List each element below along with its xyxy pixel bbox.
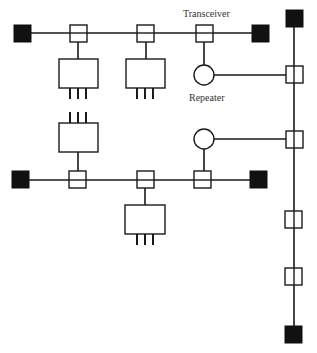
repeater-label: Repeater — [189, 92, 225, 103]
terminator-bottom-left — [12, 171, 29, 188]
terminator-bottom-right — [250, 171, 267, 188]
station-box — [59, 123, 98, 152]
station-box — [126, 59, 165, 88]
terminator-backbone-top — [286, 10, 303, 27]
station-box — [59, 59, 98, 88]
network-diagram: Transceiver Repeater — [0, 0, 317, 353]
station-box — [125, 205, 165, 234]
repeater-circle — [194, 129, 214, 149]
terminator-top-right — [252, 25, 269, 42]
terminator-top-left — [14, 25, 31, 42]
transceiver-label: Transceiver — [183, 8, 231, 19]
repeater-circle — [194, 65, 214, 85]
terminator-backbone-bottom — [285, 326, 302, 343]
